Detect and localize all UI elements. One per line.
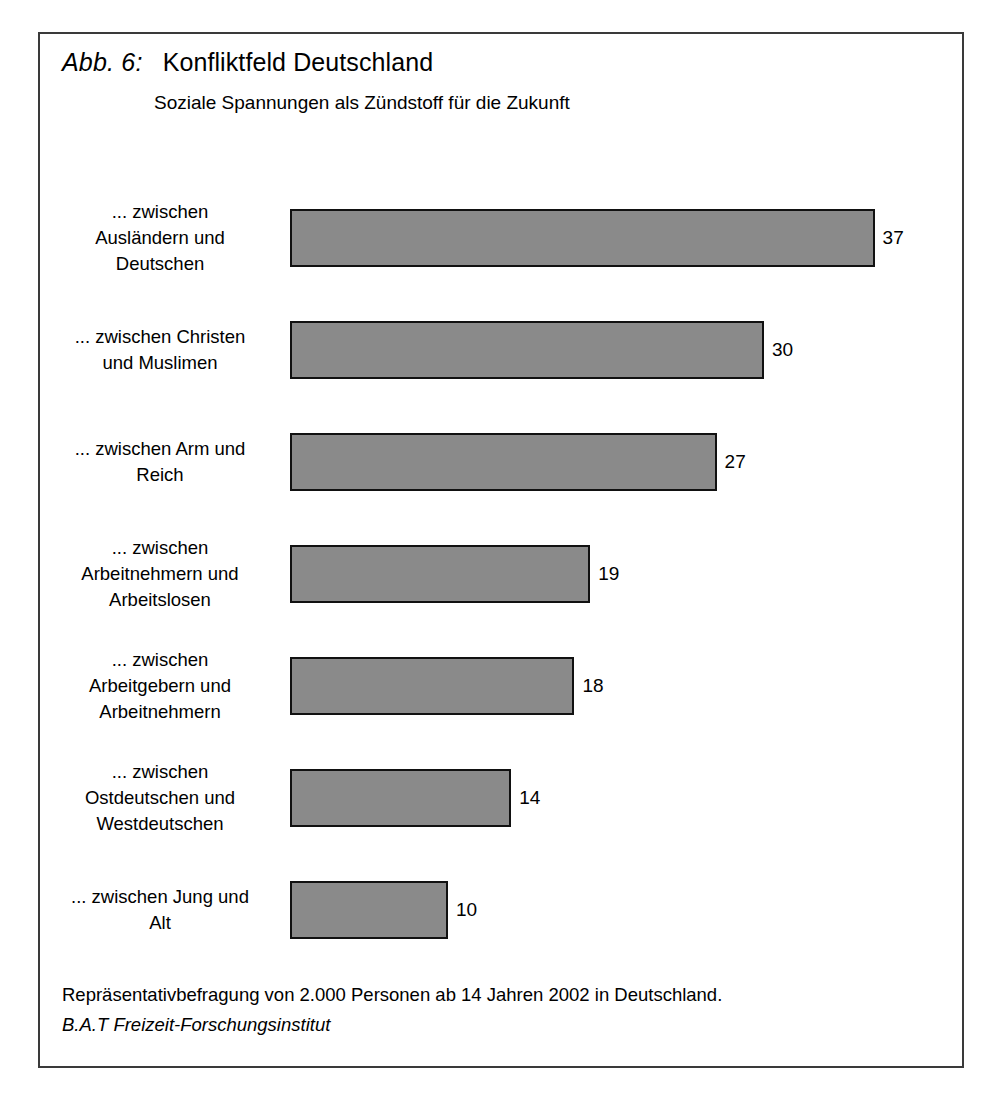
bar — [290, 433, 717, 491]
category-label: ... zwischen Christen und Muslimen — [34, 324, 286, 376]
page-title: Konfliktfeld Deutschland — [163, 48, 434, 77]
bar-value-label: 37 — [883, 227, 904, 249]
bar-group: 19 — [290, 545, 619, 603]
bar — [290, 321, 764, 379]
bar-value-label: 18 — [582, 675, 603, 697]
bar-value-label: 30 — [772, 339, 793, 361]
bar-group: 37 — [290, 209, 904, 267]
title-row: Abb. 6: Konfliktfeld Deutschland — [62, 48, 433, 77]
footnote-text: Repräsentativbefragung von 2.000 Persone… — [62, 980, 942, 1010]
bar-group: 10 — [290, 881, 477, 939]
bar-group: 30 — [290, 321, 793, 379]
category-label: ... zwischen Ausländern und Deutschen — [34, 199, 286, 277]
bar-value-label: 14 — [519, 787, 540, 809]
source-text: B.A.T Freizeit-Forschungsinstitut — [62, 1010, 942, 1040]
bar-value-label: 19 — [598, 563, 619, 585]
bar — [290, 545, 590, 603]
bar-chart-plot-area: ... zwischen Ausländern und Deutschen37.… — [40, 138, 962, 938]
bar-value-label: 10 — [456, 899, 477, 921]
bar-group: 18 — [290, 657, 604, 715]
bar-value-label: 27 — [725, 451, 746, 473]
bar — [290, 209, 875, 267]
figure-frame: Abb. 6: Konfliktfeld Deutschland Soziale… — [38, 32, 964, 1068]
figure-number: Abb. 6: — [62, 48, 143, 77]
category-label: ... zwischen Arm und Reich — [34, 436, 286, 488]
category-label: ... zwischen Ostdeutschen und Westdeutsc… — [34, 759, 286, 837]
bar-group: 27 — [290, 433, 746, 491]
bar-group: 14 — [290, 769, 540, 827]
category-label: ... zwischen Jung und Alt — [34, 884, 286, 936]
figure-footer: Repräsentativbefragung von 2.000 Persone… — [62, 980, 942, 1040]
figure-subtitle: Soziale Spannungen als Zündstoff für die… — [154, 92, 570, 114]
bar — [290, 769, 511, 827]
category-label: ... zwischen Arbeitgebern und Arbeitnehm… — [34, 647, 286, 725]
bar — [290, 881, 448, 939]
bar — [290, 657, 574, 715]
category-label: ... zwischen Arbeitnehmern und Arbeitslo… — [34, 535, 286, 613]
